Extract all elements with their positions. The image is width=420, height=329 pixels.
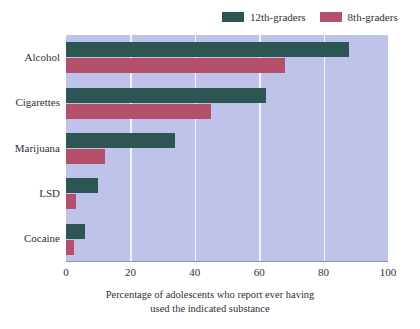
bar-alcohol-12th-graders xyxy=(66,42,349,57)
x-tick-20: 20 xyxy=(125,266,136,278)
legend-label-12th-graders: 12th-graders xyxy=(250,12,306,23)
legend-label-8th-graders: 8th-graders xyxy=(348,12,398,23)
bar-marijuana-8th-graders xyxy=(66,149,105,164)
x-axis-line xyxy=(66,261,388,262)
x-axis-tick-labels: 020406080100 xyxy=(66,266,388,280)
bar-cocaine-8th-graders xyxy=(66,240,74,255)
legend-swatch-8th-graders xyxy=(320,12,342,22)
bar-marijuana-12th-graders xyxy=(66,133,175,148)
x-tick-80: 80 xyxy=(318,266,329,278)
bar-cigarettes-8th-graders xyxy=(66,104,211,119)
y-axis-label-marijuana: Marijuana xyxy=(0,143,60,154)
y-axis-category-labels: AlcoholCigarettesMarijuanaLSDCocaine xyxy=(0,35,60,262)
bar-group-marijuana xyxy=(66,126,388,171)
x-axis-title-line2: used the indicated substance xyxy=(40,302,380,316)
y-axis-label-cocaine: Cocaine xyxy=(0,233,60,244)
legend-entry-12th-graders: 12th-graders xyxy=(222,12,306,23)
bar-group-cigarettes xyxy=(66,80,388,125)
bar-group-lsd xyxy=(66,171,388,216)
x-axis-title-line1: Percentage of adolescents who report eve… xyxy=(40,288,380,302)
bar-alcohol-8th-graders xyxy=(66,58,285,73)
y-axis-label-alcohol: Alcohol xyxy=(0,52,60,63)
x-tick-40: 40 xyxy=(189,266,200,278)
x-tick-60: 60 xyxy=(254,266,265,278)
x-axis-title: Percentage of adolescents who report eve… xyxy=(40,288,380,316)
bar-group-cocaine xyxy=(66,217,388,262)
chart-legend: 12th-graders 8th-graders xyxy=(222,9,398,25)
y-axis-label-cigarettes: Cigarettes xyxy=(0,97,60,108)
bar-chart-figure: 12th-graders 8th-graders AlcoholCigarett… xyxy=(0,0,420,329)
plot-area xyxy=(66,35,388,262)
bar-cigarettes-12th-graders xyxy=(66,88,266,103)
bar-lsd-12th-graders xyxy=(66,178,98,193)
y-axis-label-lsd: LSD xyxy=(0,188,60,199)
bar-group-alcohol xyxy=(66,35,388,80)
x-tick-0: 0 xyxy=(63,266,69,278)
bar-cocaine-12th-graders xyxy=(66,224,85,239)
bar-lsd-8th-graders xyxy=(66,194,76,209)
legend-swatch-12th-graders xyxy=(222,12,244,22)
x-tick-100: 100 xyxy=(380,266,397,278)
legend-entry-8th-graders: 8th-graders xyxy=(320,12,398,23)
